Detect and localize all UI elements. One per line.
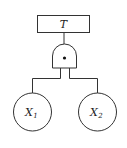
and-gate	[53, 44, 77, 68]
and-gate-shape	[53, 44, 77, 68]
connector-left	[33, 68, 61, 93]
fault-tree-diagram: T X 1 X 2	[0, 0, 127, 148]
connector-right	[70, 68, 98, 93]
basic-event-2-subscript: 2	[97, 112, 103, 120]
and-gate-dot-icon	[63, 56, 66, 59]
top-event: T	[38, 16, 90, 33]
connectors-gate-to-events	[33, 68, 98, 93]
basic-event-1-subscript: 1	[33, 112, 37, 120]
basic-event-2: X 2	[79, 93, 117, 131]
basic-event-1: X 1	[14, 93, 52, 131]
